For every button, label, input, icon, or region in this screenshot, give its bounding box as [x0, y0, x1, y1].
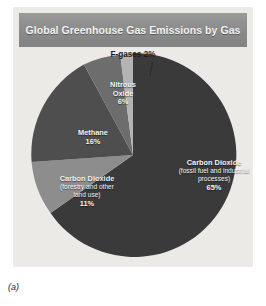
- figure-caption: (a): [8, 282, 19, 292]
- pie-chart-svg: [14, 44, 252, 266]
- pie-chart-plot-area: [14, 44, 252, 266]
- chart-title: Global Greenhouse Gas Emissions by Gas: [19, 13, 247, 47]
- chart-title-bar: Global Greenhouse Gas Emissions by Gas: [19, 13, 247, 47]
- figure-panel: Global Greenhouse Gas Emissions by Gas F…: [14, 8, 252, 266]
